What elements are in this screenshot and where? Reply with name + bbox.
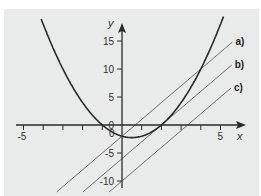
chart-svg: a)b)c)-550-10-5051015xy [0, 0, 261, 196]
y-tick-label: -10 [100, 176, 115, 187]
legend-label-c: c) [234, 82, 243, 93]
x-tick-label: -5 [18, 131, 27, 142]
parabola-curve [41, 17, 223, 138]
legend-label-a: a) [235, 36, 244, 47]
y-tick-label: -5 [105, 148, 114, 159]
x-tick-label: 5 [218, 131, 224, 142]
x-axis-label: x [236, 130, 243, 142]
y-tick-label: 15 [103, 36, 115, 47]
legend-label-b: b) [235, 59, 244, 70]
y-tick-label: 10 [103, 64, 115, 75]
line-a [57, 42, 233, 192]
y-tick-label: 0 [108, 120, 114, 131]
y-tick-label: 5 [108, 92, 114, 103]
y-axis-label: y [107, 17, 115, 29]
line-c [109, 88, 231, 192]
chart-frame: a)b)c)-550-10-5051015xy [0, 0, 261, 196]
